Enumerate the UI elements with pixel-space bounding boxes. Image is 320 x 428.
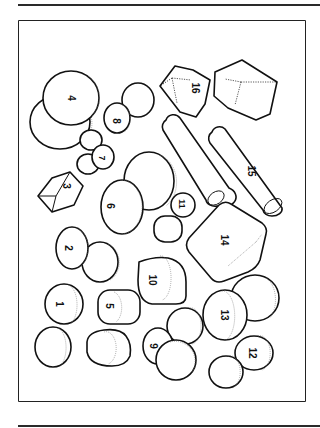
- object-1: 1: [35, 284, 83, 367]
- object-2: 2: [56, 227, 119, 282]
- object-16: 16: [160, 60, 277, 120]
- label-12: 12: [247, 347, 258, 359]
- object-8: 8: [104, 83, 154, 133]
- label-4: 4: [66, 95, 77, 101]
- object-5: 5: [87, 290, 140, 366]
- object-14: 14: [187, 202, 267, 282]
- object-3: 3: [38, 172, 83, 212]
- label-14: 14: [219, 234, 230, 246]
- label-3: 3: [61, 183, 72, 189]
- label-9: 9: [148, 343, 159, 349]
- label-5: 5: [104, 303, 115, 309]
- label-13: 13: [219, 309, 230, 321]
- object-13: 13: [203, 275, 279, 340]
- label-16: 16: [190, 82, 201, 94]
- label-11: 11: [177, 199, 187, 209]
- label-7: 7: [97, 155, 107, 160]
- object-7: 7: [77, 130, 114, 174]
- object-12: 12: [209, 336, 273, 388]
- label-6: 6: [105, 203, 116, 209]
- label-15: 15: [246, 165, 257, 177]
- object-10: 10: [138, 256, 186, 304]
- label-1: 1: [54, 301, 65, 307]
- objects-figure: 4 8 7 3 6: [0, 0, 320, 428]
- label-8: 8: [111, 118, 122, 124]
- object-9: 9: [143, 308, 203, 380]
- label-2: 2: [63, 245, 74, 251]
- label-10: 10: [147, 274, 158, 286]
